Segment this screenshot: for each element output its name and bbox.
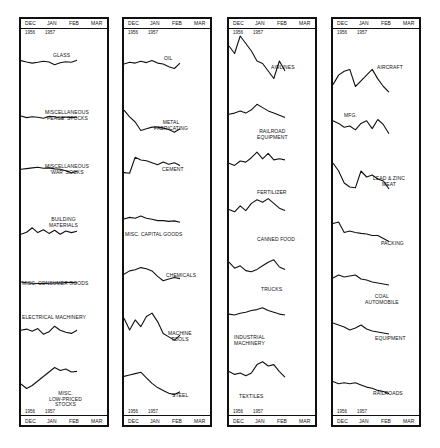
series-label-line: OIL [164,56,172,62]
series-label-line: 'PEACE' STOCKS [45,116,89,122]
series-label-line: AIRCRAFT [377,65,403,71]
series-line [124,216,180,222]
series-line [21,326,77,334]
series-label-line: TOOLS [168,337,192,343]
series-label-line: GLASS [53,53,70,59]
chart-panel-1: DECJANFEBMAR1956195619571957DECJANFEBMAR… [19,17,109,427]
series-label-line: STEEL [172,393,188,399]
series-label-line: FABRICATING [154,126,188,132]
series-line [333,275,389,285]
series-line [21,368,77,389]
series-label-line: FERTILIZER [257,190,287,196]
series-label: RAILROADEQUIPMENT [257,129,288,140]
series-line [229,199,285,212]
series-label-line: ELECTRICAL MACHINERY [22,315,86,321]
series-label: METALFABRICATING [154,120,188,131]
series-label-line: CHEMICALS [166,273,196,279]
series-label-line: CANNED FOOD [257,237,295,243]
series-label: MISC.LOW-PRICEDSTOCKS [49,391,82,408]
series-label: MISC. CONSUMER GOODS [22,281,88,287]
chart-panel-2: DECJANFEBMAR1956195619571957DECJANFEBMAR… [122,17,212,427]
series-label: TEXTILES [239,394,263,400]
series-label-line: TEXTILES [239,394,263,400]
series-label-line: TRUCKS [261,287,282,293]
series-line [333,69,389,92]
series-line [229,362,285,377]
series-line [21,60,77,65]
series-label: CEMENT [162,167,184,173]
series-label: STEEL [172,393,188,399]
series-label-line: AIRLINES [271,65,295,71]
series-label: MISCELLANEOUS'WAR' SOCKS [45,164,89,175]
series-label: RAILROADS [373,391,403,397]
series-label-line: EQUIPMENT [375,336,406,342]
series-line [229,308,285,315]
series-label: COALAUTOMOBILE [365,294,399,305]
series-label-line: 'WAR' SOCKS [45,170,89,176]
series-label: FERTILIZER [257,190,287,196]
series-line [333,323,389,334]
series-label: MFG. [344,113,357,119]
series-label: EQUIPMENT [375,336,406,342]
series-label-line: PACKING [381,241,404,247]
series-label: PACKING [381,241,404,247]
series-label-line: AUTOMOBILE [365,300,399,306]
chart-panel-4: DECJANFEBMAR1956195619571957DECJANFEBMAR… [331,17,421,427]
series-label-line: MEAT [373,182,405,188]
chart-panel-3: DECJANFEBMAR1956195619571957DECJANFEBMAR… [227,17,317,427]
series-label: CHEMICALS [166,273,196,279]
series-label: MISC. CAPITAL GOODS [125,232,182,238]
series-label-line: STOCKS [49,402,82,408]
series-label: TRUCKS [261,287,282,293]
series-label-line: RAILROADS [373,391,403,397]
series-line [124,60,180,68]
series-line [229,260,285,272]
series-label-line: MFG. [344,113,357,119]
series-line [333,120,389,134]
series-label: ELECTRICAL MACHINERY [22,315,86,321]
series-label-line: MATERIALS [49,223,78,229]
series-line [333,222,389,242]
series-line [21,228,77,234]
series-line [229,152,285,165]
series-lines [229,19,315,425]
series-label-line: MISC. CAPITAL GOODS [125,232,182,238]
series-label-line: EQUIPMENT [257,135,288,141]
series-label: CANNED FOOD [257,237,295,243]
series-label-line: MACHINERY [234,341,265,347]
series-label-line: CEMENT [162,167,184,173]
series-label: OIL [164,56,172,62]
series-line [229,36,285,79]
series-line [229,104,285,117]
series-lines [333,19,419,425]
series-label: AIRLINES [271,65,295,71]
series-lines [124,19,210,425]
series-label: LEAD & ZINCMEAT [373,176,405,187]
series-label: MACHINETOOLS [168,331,192,342]
series-label: INDUSTRIALMACHINERY [234,335,265,346]
series-label: GLASS [53,53,70,59]
series-label: BUILDINGMATERIALS [49,217,78,228]
series-label: AIRCRAFT [377,65,403,71]
series-label-line: MISC. CONSUMER GOODS [22,281,88,287]
series-label: MISCELLANEOUS'PEACE' STOCKS [45,110,89,121]
